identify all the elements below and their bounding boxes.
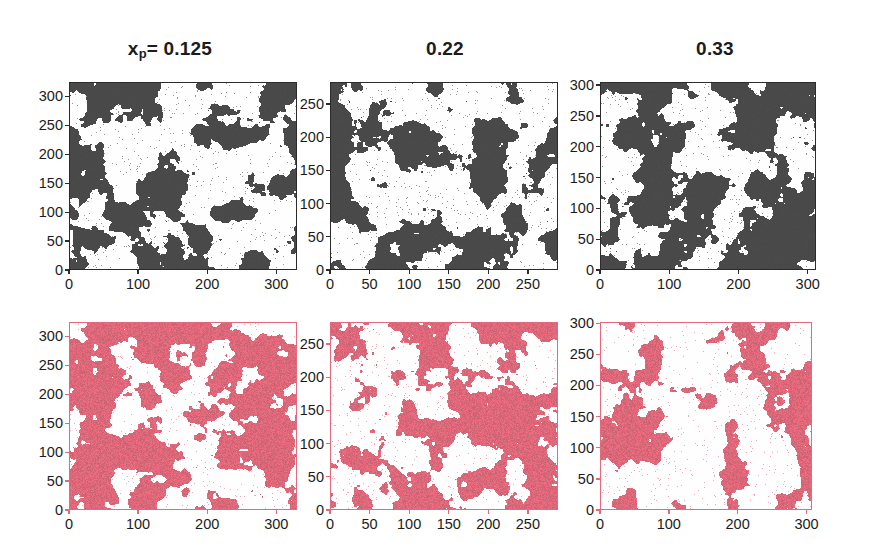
xtick-mark-bottom-middle-1 <box>369 510 370 514</box>
figure-canvas: xp= 0.12505010015020025030001002003000.2… <box>0 0 878 549</box>
ytick-mark-top-right-5 <box>596 115 600 116</box>
ytick-mark-top-right-4 <box>596 146 600 147</box>
plot-area-top-right <box>600 82 816 270</box>
ytick-mark-bottom-right-3 <box>596 416 600 417</box>
ytick-mark-bottom-middle-2 <box>326 443 330 444</box>
ytick-label-top-right-3: 150 <box>552 170 594 186</box>
xtick-mark-top-middle-5 <box>527 270 528 274</box>
ytick-label-bottom-middle-1: 50 <box>282 469 324 485</box>
xtick-label-top-middle-1: 50 <box>362 276 378 292</box>
panel-bottom-left: 0501001502002503000100200300 <box>0 0 878 549</box>
ytick-label-bottom-right-1: 50 <box>552 471 594 487</box>
point-cloud-top-right <box>601 83 815 269</box>
ytick-mark-bottom-middle-3 <box>326 410 330 411</box>
panel-title-top-middle: 0.22 <box>300 38 590 60</box>
xtick-label-top-right-1: 100 <box>657 276 681 292</box>
xtick-label-bottom-middle-3: 150 <box>437 516 461 532</box>
xtick-mark-bottom-middle-5 <box>527 510 528 514</box>
ytick-label-top-right-0: 0 <box>552 262 594 278</box>
ytick-mark-top-left-2 <box>65 212 69 213</box>
xtick-label-bottom-middle-5: 250 <box>516 516 540 532</box>
ytick-mark-top-middle-4 <box>326 137 330 138</box>
xtick-mark-top-left-1 <box>137 270 138 274</box>
ytick-label-top-right-4: 200 <box>552 139 594 155</box>
ytick-label-bottom-left-4: 200 <box>21 386 63 402</box>
ytick-label-top-left-4: 200 <box>21 146 63 162</box>
ytick-label-bottom-left-6: 300 <box>21 328 63 344</box>
ytick-label-bottom-middle-5: 250 <box>282 336 324 352</box>
ytick-mark-top-right-0 <box>596 269 600 270</box>
ytick-mark-bottom-left-1 <box>65 480 69 481</box>
ytick-label-bottom-middle-2: 100 <box>282 436 324 452</box>
ytick-mark-top-left-1 <box>65 240 69 241</box>
xtick-label-top-middle-2: 100 <box>397 276 421 292</box>
point-cloud-top-middle <box>331 83 557 269</box>
ytick-label-top-right-2: 100 <box>552 200 594 216</box>
ytick-label-bottom-right-3: 150 <box>552 409 594 425</box>
ytick-label-bottom-right-5: 250 <box>552 346 594 362</box>
ytick-mark-bottom-left-5 <box>65 365 69 366</box>
ytick-label-bottom-right-0: 0 <box>552 502 594 518</box>
point-cloud-top-left <box>70 83 296 269</box>
xtick-mark-top-middle-0 <box>329 270 330 274</box>
ytick-label-bottom-left-1: 50 <box>21 473 63 489</box>
xtick-mark-bottom-left-2 <box>207 510 208 514</box>
xtick-mark-bottom-middle-0 <box>329 510 330 514</box>
xtick-mark-bottom-right-1 <box>668 510 669 514</box>
ytick-label-top-middle-0: 0 <box>282 262 324 278</box>
xtick-label-bottom-left-3: 300 <box>264 516 288 532</box>
ytick-label-bottom-middle-0: 0 <box>282 502 324 518</box>
ytick-mark-bottom-left-4 <box>65 394 69 395</box>
ytick-mark-top-left-4 <box>65 154 69 155</box>
ytick-label-top-left-6: 300 <box>21 88 63 104</box>
xtick-label-bottom-middle-1: 50 <box>362 516 378 532</box>
ytick-mark-top-left-6 <box>65 96 69 97</box>
ytick-label-top-right-5: 250 <box>552 108 594 124</box>
xtick-mark-top-middle-4 <box>488 270 489 274</box>
xtick-label-bottom-right-2: 200 <box>726 516 750 532</box>
title-subscript: p <box>139 46 147 61</box>
xtick-mark-bottom-right-3 <box>806 510 807 514</box>
point-cloud-bottom-left <box>70 323 296 509</box>
xtick-label-bottom-right-0: 0 <box>596 516 604 532</box>
ytick-mark-bottom-middle-4 <box>326 377 330 378</box>
xtick-mark-top-middle-3 <box>448 270 449 274</box>
title-equation: 0.33 <box>696 38 734 59</box>
ytick-label-top-middle-1: 50 <box>282 229 324 245</box>
ytick-label-top-left-5: 250 <box>21 117 63 133</box>
ytick-mark-top-left-5 <box>65 125 69 126</box>
xtick-label-top-left-1: 100 <box>126 276 150 292</box>
xtick-label-top-middle-3: 150 <box>437 276 461 292</box>
plot-area-bottom-left <box>69 322 297 510</box>
ytick-mark-bottom-right-4 <box>596 385 600 386</box>
panel-top-left: xp= 0.1250501001502002503000100200300 <box>0 0 878 549</box>
ytick-mark-bottom-right-2 <box>596 447 600 448</box>
xtick-label-top-middle-5: 250 <box>516 276 540 292</box>
xtick-mark-bottom-left-3 <box>276 510 277 514</box>
ytick-label-bottom-left-3: 150 <box>21 415 63 431</box>
ytick-label-top-middle-3: 150 <box>282 162 324 178</box>
xtick-label-top-left-3: 300 <box>264 276 288 292</box>
panel-top-right: 0.330501001502002503000100200300 <box>0 0 878 549</box>
title-equation: = 0.125 <box>147 38 212 59</box>
xtick-label-bottom-right-3: 300 <box>794 516 818 532</box>
ytick-mark-top-left-3 <box>65 183 69 184</box>
xtick-mark-bottom-middle-3 <box>448 510 449 514</box>
title-equation: 0.22 <box>426 38 464 59</box>
xtick-label-bottom-right-1: 100 <box>657 516 681 532</box>
ytick-mark-top-middle-2 <box>326 203 330 204</box>
plot-area-top-middle <box>330 82 558 270</box>
xtick-label-top-middle-0: 0 <box>326 276 334 292</box>
ytick-label-top-left-3: 150 <box>21 175 63 191</box>
ytick-mark-bottom-middle-5 <box>326 343 330 344</box>
ytick-mark-top-right-6 <box>596 84 600 85</box>
xtick-mark-bottom-left-0 <box>68 510 69 514</box>
ytick-label-top-left-1: 50 <box>21 233 63 249</box>
panel-top-middle: 0.22050100150200250050100150200250 <box>0 0 878 549</box>
ytick-label-bottom-left-0: 0 <box>21 502 63 518</box>
ytick-label-bottom-left-5: 250 <box>21 357 63 373</box>
xtick-label-top-middle-4: 200 <box>476 276 500 292</box>
ytick-label-bottom-right-2: 100 <box>552 440 594 456</box>
xtick-mark-bottom-middle-4 <box>488 510 489 514</box>
plot-area-bottom-middle <box>330 322 558 510</box>
